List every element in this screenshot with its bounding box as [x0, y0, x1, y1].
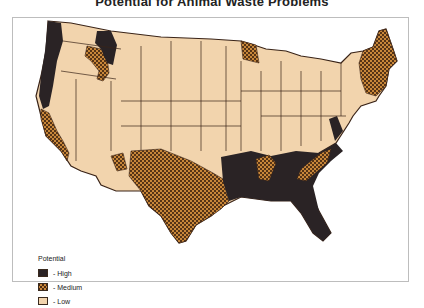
- legend-label-high: - High: [53, 270, 72, 277]
- map-frame: Potential - High - Medium - Low: [12, 17, 409, 282]
- us-map: [13, 18, 410, 283]
- legend-swatch-low: [38, 297, 48, 305]
- legend-label-low: - Low: [53, 298, 70, 305]
- legend-item-high: - High: [38, 266, 82, 280]
- legend-swatch-high: [38, 269, 48, 277]
- legend-item-low: - Low: [38, 294, 82, 308]
- legend-item-medium: - Medium: [38, 280, 82, 294]
- region-new-england-medium: [359, 29, 397, 96]
- map-title: Potential for Animal Waste Problems: [0, 0, 424, 9]
- legend-label-medium: - Medium: [53, 284, 82, 291]
- map-legend: Potential - High - Medium - Low: [38, 255, 82, 308]
- legend-swatch-medium: [38, 283, 48, 291]
- legend-title: Potential: [38, 255, 82, 262]
